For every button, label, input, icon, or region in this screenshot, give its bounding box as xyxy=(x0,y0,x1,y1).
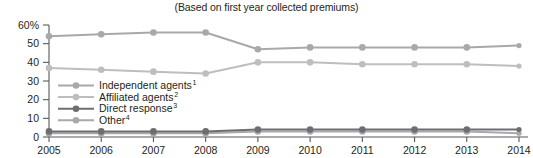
y-tick-label: 0 xyxy=(33,131,39,143)
x-axis-tick-labels: 2005200620072008200920102011201220132014 xyxy=(37,144,531,156)
legend-footnote-marker: 2 xyxy=(174,91,178,98)
x-tick-label: 2014 xyxy=(507,144,531,156)
legend-footnote-marker: 4 xyxy=(126,114,130,121)
legend-footnote-marker: 3 xyxy=(173,102,177,109)
data-point xyxy=(150,68,157,75)
x-tick-label: 2009 xyxy=(246,144,270,156)
legend-label: Independent agents xyxy=(99,79,192,91)
data-point xyxy=(255,126,262,133)
x-tick-label: 2006 xyxy=(90,144,114,156)
data-point xyxy=(463,126,470,133)
legend-swatch-dot xyxy=(73,105,80,112)
line-chart-plot: 0102030405060% 2005200620072008200920102… xyxy=(0,0,533,158)
data-point xyxy=(307,44,314,51)
x-tick-label: 2011 xyxy=(351,144,374,156)
data-point xyxy=(307,59,314,66)
data-point xyxy=(46,128,53,135)
data-point xyxy=(307,126,314,133)
legend-swatch-dot xyxy=(73,117,80,124)
series-line xyxy=(49,62,519,73)
data-point xyxy=(411,126,418,133)
data-point xyxy=(98,128,105,135)
x-axis-tick-marks xyxy=(49,137,519,142)
data-point xyxy=(255,46,262,53)
legend-label: Direct response xyxy=(99,102,173,114)
chart-container: (Based on first year collected premiums)… xyxy=(0,0,533,158)
data-point xyxy=(255,59,262,66)
legend-footnote-marker: 1 xyxy=(192,79,196,86)
legend-label: Other xyxy=(99,114,126,126)
x-tick-label: 2010 xyxy=(298,144,322,156)
data-point xyxy=(359,44,366,51)
legend-swatch-dot xyxy=(73,94,80,101)
data-point xyxy=(359,61,366,68)
y-tick-label: 20 xyxy=(27,93,39,105)
y-axis-tick-marks xyxy=(43,25,49,137)
series-independent-agents xyxy=(46,29,522,52)
series-line xyxy=(49,32,519,49)
chart-legend: Independent agents1Affiliated agents2Dir… xyxy=(58,79,196,126)
data-point xyxy=(202,128,209,135)
data-point xyxy=(46,33,53,40)
data-point xyxy=(516,63,521,68)
y-tick-label: 10 xyxy=(27,112,39,124)
x-tick-label: 2012 xyxy=(403,144,427,156)
data-point xyxy=(516,127,521,132)
x-tick-label: 2007 xyxy=(142,144,166,156)
data-point xyxy=(98,31,105,38)
x-tick-label: 2005 xyxy=(37,144,61,156)
y-tick-label: 30 xyxy=(27,75,39,87)
legend-label: Affiliated agents xyxy=(99,91,174,103)
data-point xyxy=(150,29,157,36)
data-point xyxy=(411,44,418,51)
data-point xyxy=(202,70,209,77)
y-axis-tick-labels: 0102030405060% xyxy=(18,19,39,143)
y-tick-label: 40 xyxy=(27,56,39,68)
data-point xyxy=(516,43,521,48)
data-point xyxy=(98,67,105,74)
x-tick-label: 2008 xyxy=(194,144,218,156)
y-tick-label: 60% xyxy=(18,19,39,31)
data-point xyxy=(202,29,209,36)
data-point xyxy=(46,65,53,72)
y-tick-label: 50 xyxy=(27,37,39,49)
data-point xyxy=(150,128,157,135)
data-point xyxy=(359,126,366,133)
series-affiliated-agents xyxy=(46,59,522,77)
data-point xyxy=(463,61,470,68)
data-point xyxy=(411,61,418,68)
legend-swatch-dot xyxy=(73,82,80,89)
x-tick-label: 2013 xyxy=(455,144,479,156)
data-point xyxy=(463,44,470,51)
